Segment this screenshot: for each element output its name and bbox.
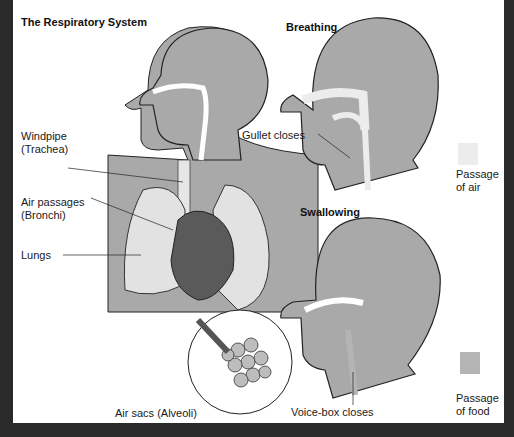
food-legend-swatch <box>460 352 480 374</box>
bronchi-label: Air passages (Bronchi) <box>21 196 85 222</box>
swallowing-heading: Swallowing <box>300 206 360 218</box>
lungs-label: Lungs <box>21 249 51 262</box>
diagram-panel: The Respiratory System Breathing Swallow… <box>13 0 504 423</box>
voicebox-label: Voice-box closes <box>291 406 374 419</box>
food-legend-label: Passage of food <box>456 392 499 418</box>
air-legend-swatch <box>458 143 478 165</box>
breathing-heading: Breathing <box>286 21 337 33</box>
respiratory-illustration <box>13 0 504 423</box>
windpipe-label: Windpipe (Trachea) <box>21 130 68 156</box>
diagram-title: The Respiratory System <box>21 16 147 28</box>
air-legend-label: Passage of air <box>456 168 499 194</box>
gullet-label: Gullet closes <box>242 129 305 142</box>
alveoli-label: Air sacs (Alveoli) <box>115 407 197 420</box>
